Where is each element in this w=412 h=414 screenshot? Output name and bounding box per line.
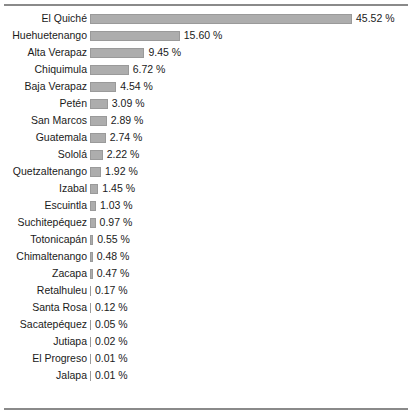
- bar-track: 1.45 %: [90, 180, 412, 197]
- bar-track: 2.74 %: [90, 129, 412, 146]
- category-label: Baja Verapaz: [0, 78, 90, 95]
- bar-track: 15.60 %: [90, 27, 412, 44]
- bar-row: El Quiché45.52 %: [0, 10, 412, 27]
- bar-row: Petén3.09 %: [0, 95, 412, 112]
- value-label: 0.55 %: [93, 231, 130, 248]
- category-label: Quetzaltenango: [0, 163, 90, 180]
- frame-bottom-rule: [4, 408, 408, 410]
- bar-track: 1.03 %: [90, 197, 412, 214]
- value-label: 9.45 %: [144, 44, 181, 61]
- value-label: 1.45 %: [98, 180, 135, 197]
- category-label: Sacatepéquez: [0, 316, 90, 333]
- value-label: 0.17 %: [91, 282, 128, 299]
- category-label: Guatemala: [0, 129, 90, 146]
- value-label: 2.22 %: [103, 146, 140, 163]
- bar-track: 0.12 %: [90, 299, 412, 316]
- bar-track: 0.01 %: [90, 350, 412, 367]
- bar-row: Izabal1.45 %: [0, 180, 412, 197]
- bar-row: El Progreso0.01 %: [0, 350, 412, 367]
- bar-row: Chimaltenango0.48 %: [0, 248, 412, 265]
- bar: [90, 133, 106, 143]
- category-label: San Marcos: [0, 112, 90, 129]
- bar-track: 0.02 %: [90, 333, 412, 350]
- bar-chart: El Quiché45.52 %Huehuetenango15.60 %Alta…: [0, 0, 412, 414]
- bar-row: Sacatepéquez0.05 %: [0, 316, 412, 333]
- category-label: El Progreso: [0, 350, 90, 367]
- bar-row: Totonicapán0.55 %: [0, 231, 412, 248]
- category-label: Huehuetenango: [0, 27, 90, 44]
- bar: [90, 31, 180, 41]
- bar-row: Quetzaltenango1.92 %: [0, 163, 412, 180]
- value-label: 1.03 %: [96, 197, 133, 214]
- bar-track: 0.97 %: [90, 214, 412, 231]
- bar-track: 2.22 %: [90, 146, 412, 163]
- bar: [90, 14, 352, 24]
- bar-row: Sololá2.22 %: [0, 146, 412, 163]
- value-label: 0.47 %: [93, 265, 130, 282]
- category-label: El Quiché: [0, 10, 90, 27]
- bar-track: 2.89 %: [90, 112, 412, 129]
- bar-row: Chiquimula6.72 %: [0, 61, 412, 78]
- bar-row: San Marcos2.89 %: [0, 112, 412, 129]
- bar-track: 0.17 %: [90, 282, 412, 299]
- value-label: 15.60 %: [180, 27, 223, 44]
- frame-top-rule: [4, 4, 408, 6]
- bar: [90, 82, 116, 92]
- value-label: 0.05 %: [91, 316, 128, 333]
- bar-track: 1.92 %: [90, 163, 412, 180]
- bar-track: 9.45 %: [90, 44, 412, 61]
- value-label: 2.89 %: [107, 112, 144, 129]
- value-label: 0.02 %: [91, 333, 128, 350]
- category-label: Zacapa: [0, 265, 90, 282]
- category-label: Retalhuleu: [0, 282, 90, 299]
- bar-track: 45.52 %: [90, 10, 412, 27]
- category-label: Chiquimula: [0, 61, 90, 78]
- category-label: Sololá: [0, 146, 90, 163]
- bar-track: 0.01 %: [90, 367, 412, 384]
- bar-row: Escuintla1.03 %: [0, 197, 412, 214]
- value-label: 3.09 %: [108, 95, 145, 112]
- bar-row: Retalhuleu0.17 %: [0, 282, 412, 299]
- category-label: Santa Rosa: [0, 299, 90, 316]
- bar-row: Alta Verapaz9.45 %: [0, 44, 412, 61]
- bar: [90, 48, 144, 58]
- bar-track: 3.09 %: [90, 95, 412, 112]
- category-label: Escuintla: [0, 197, 90, 214]
- bar: [90, 99, 108, 109]
- bar-track: 0.05 %: [90, 316, 412, 333]
- value-label: 0.97 %: [96, 214, 133, 231]
- category-label: Jutiapa: [0, 333, 90, 350]
- bar-track: 0.55 %: [90, 231, 412, 248]
- value-label: 0.12 %: [91, 299, 128, 316]
- plot-area: El Quiché45.52 %Huehuetenango15.60 %Alta…: [0, 10, 412, 384]
- bar-row: Guatemala2.74 %: [0, 129, 412, 146]
- category-label: Petén: [0, 95, 90, 112]
- value-label: 0.48 %: [93, 248, 130, 265]
- category-label: Alta Verapaz: [0, 44, 90, 61]
- bar-track: 4.54 %: [90, 78, 412, 95]
- value-label: 6.72 %: [129, 61, 166, 78]
- bar-row: Suchitepéquez0.97 %: [0, 214, 412, 231]
- bar-row: Zacapa0.47 %: [0, 265, 412, 282]
- category-label: Jalapa: [0, 367, 90, 384]
- category-label: Izabal: [0, 180, 90, 197]
- bar-track: 6.72 %: [90, 61, 412, 78]
- value-label: 0.01 %: [91, 350, 128, 367]
- value-label: 4.54 %: [116, 78, 153, 95]
- bar-row: Santa Rosa0.12 %: [0, 299, 412, 316]
- bar: [90, 65, 129, 75]
- bar: [90, 184, 98, 194]
- bar-row: Baja Verapaz4.54 %: [0, 78, 412, 95]
- bar: [90, 116, 107, 126]
- bar: [90, 167, 101, 177]
- category-label: Totonicapán: [0, 231, 90, 248]
- bar-row: Jutiapa0.02 %: [0, 333, 412, 350]
- bar-row: Jalapa0.01 %: [0, 367, 412, 384]
- value-label: 0.01 %: [91, 367, 128, 384]
- value-label: 1.92 %: [101, 163, 138, 180]
- bar-row: Huehuetenango15.60 %: [0, 27, 412, 44]
- category-label: Chimaltenango: [0, 248, 90, 265]
- bar-track: 0.48 %: [90, 248, 412, 265]
- category-label: Suchitepéquez: [0, 214, 90, 231]
- value-label: 45.52 %: [352, 10, 395, 27]
